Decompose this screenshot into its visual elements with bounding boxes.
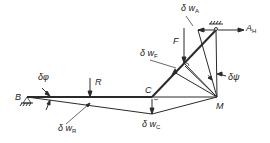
pin-support-b bbox=[20, 97, 33, 106]
label-f: F bbox=[173, 37, 179, 46]
line-am bbox=[216, 30, 217, 97]
label-dphi: δφ bbox=[38, 73, 49, 82]
label-dw-r: δ wR bbox=[58, 124, 76, 134]
label-r: R bbox=[95, 78, 102, 87]
label-m: M bbox=[216, 102, 224, 111]
label-dpsi: δψ bbox=[228, 73, 240, 82]
displaced-beam bbox=[27, 97, 217, 114]
pin-support-a bbox=[209, 21, 223, 31]
label-a-h: AH bbox=[246, 24, 256, 34]
label-dw-a: δ wA bbox=[181, 4, 199, 14]
label-c: C bbox=[145, 86, 152, 95]
label-b: B bbox=[15, 93, 21, 102]
label-dw-f: δ wF bbox=[140, 49, 158, 59]
label-dw-c: δ wC bbox=[142, 120, 160, 130]
